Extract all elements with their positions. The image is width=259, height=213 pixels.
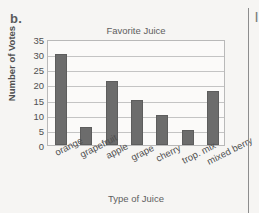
plot-area [47,40,225,146]
y-tick-label: 15 [33,95,44,106]
chart-title: Favorite Juice [47,25,225,36]
y-tick-label: 20 [33,80,44,91]
x-axis-label: Type of Juice [47,193,225,204]
bar [131,100,143,145]
y-tick-label: 0 [39,141,44,152]
gridline [48,86,224,87]
bar [182,130,194,145]
y-tick-label: 35 [33,35,44,46]
gridline [48,71,224,72]
gridline [48,56,224,57]
divider-glyph: | [255,10,258,22]
y-axis-label: Number of Votes [6,24,17,104]
bar [156,115,168,145]
bar-chart: Favorite Juice Number of Votes 051015202… [0,0,241,213]
y-tick-label: 25 [33,65,44,76]
y-tick-label: 30 [33,50,44,61]
page-canvas: b. Favorite Juice Number of Votes 051015… [0,0,259,213]
bar [55,54,67,145]
bar [207,91,219,146]
page-divider [248,8,249,213]
y-tick-label: 10 [33,110,44,121]
x-axis-categories: orangegrapefruitapplegrapecherrytrop. mi… [47,148,225,192]
y-tick-label: 5 [39,125,44,136]
